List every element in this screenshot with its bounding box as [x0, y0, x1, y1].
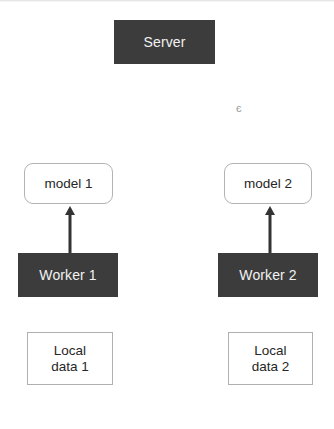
scan-edge-artifact: [0, 0, 334, 2]
node-local-data-1: Local data 1: [27, 332, 113, 385]
arrow-shaft: [269, 213, 272, 254]
node-worker-2-label: Worker 2: [239, 267, 296, 284]
node-local-data-2-label: Local data 2: [252, 343, 290, 375]
node-model-2-label: model 2: [244, 176, 292, 192]
node-model-1: model 1: [24, 163, 113, 204]
node-local-data-2: Local data 2: [228, 332, 313, 385]
arrow-shaft: [69, 213, 72, 254]
ink-smudge-artifact: є: [236, 103, 242, 114]
node-worker-2: Worker 2: [218, 253, 318, 297]
node-model-2: model 2: [224, 163, 312, 204]
node-server-label: Server: [144, 34, 186, 51]
node-model-1-label: model 1: [44, 176, 92, 192]
node-local-data-1-label: Local data 1: [51, 343, 89, 375]
arrow-worker-1-to-model-1: [62, 206, 78, 254]
diagram-canvas: Server є model 1 model 2 Worker 1 Worker…: [0, 0, 334, 429]
node-server: Server: [114, 20, 215, 64]
node-worker-1: Worker 1: [18, 253, 118, 297]
node-worker-1-label: Worker 1: [39, 267, 96, 284]
arrow-worker-2-to-model-2: [262, 206, 278, 254]
